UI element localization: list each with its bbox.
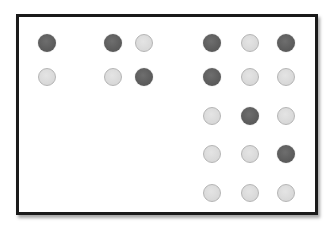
dark-dot-icon — [203, 34, 221, 52]
diagram-frame — [16, 14, 318, 215]
dark-dot-icon — [277, 34, 295, 52]
light-dot-icon — [203, 107, 221, 125]
light-dot-icon — [104, 68, 122, 86]
light-dot-icon — [38, 68, 56, 86]
dark-dot-icon — [277, 145, 295, 163]
light-dot-icon — [277, 68, 295, 86]
light-dot-icon — [277, 184, 295, 202]
light-dot-icon — [241, 184, 259, 202]
light-dot-icon — [277, 107, 295, 125]
dark-dot-icon — [104, 34, 122, 52]
dark-dot-icon — [203, 68, 221, 86]
light-dot-icon — [203, 184, 221, 202]
light-dot-icon — [241, 145, 259, 163]
dark-dot-icon — [135, 68, 153, 86]
light-dot-icon — [241, 68, 259, 86]
light-dot-icon — [241, 34, 259, 52]
light-dot-icon — [203, 145, 221, 163]
dark-dot-icon — [241, 107, 259, 125]
light-dot-icon — [135, 34, 153, 52]
dark-dot-icon — [38, 34, 56, 52]
